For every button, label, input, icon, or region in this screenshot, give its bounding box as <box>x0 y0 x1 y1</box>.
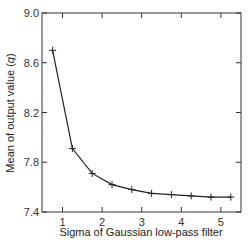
plus-marker-icon <box>148 190 155 197</box>
line-chart: 12345 7.47.88.28.69.0 Sigma of Gaussian … <box>0 0 250 250</box>
y-tick-label: 9.0 <box>24 7 39 19</box>
y-tick-label: 8.2 <box>24 107 39 119</box>
y-tick-label: 8.6 <box>24 57 39 69</box>
plus-marker-icon <box>128 186 135 193</box>
y-tick-label: 7.4 <box>24 206 39 218</box>
data-markers <box>49 47 234 201</box>
y-axis-ticks: 7.47.88.28.69.0 <box>24 7 241 218</box>
plus-marker-icon <box>208 194 215 201</box>
plus-marker-icon <box>227 194 234 201</box>
data-line <box>53 50 231 197</box>
y-tick-label: 7.8 <box>24 156 39 168</box>
plus-marker-icon <box>49 47 56 54</box>
plus-marker-icon <box>109 181 116 188</box>
plot-frame <box>42 13 241 212</box>
plus-marker-icon <box>188 192 195 199</box>
plus-marker-icon <box>168 191 175 198</box>
y-axis-label: Mean of output value (q) <box>4 53 16 172</box>
x-axis-label: Sigma of Gaussian low-pass filter <box>59 226 223 238</box>
